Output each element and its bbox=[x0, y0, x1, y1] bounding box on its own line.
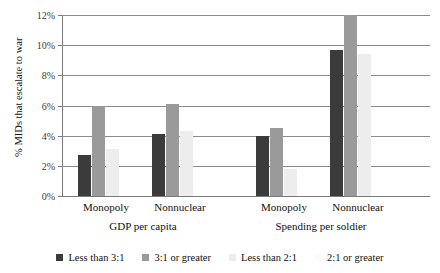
bar bbox=[166, 104, 179, 196]
x-axis-category-label: Nonnuclear bbox=[308, 201, 408, 213]
x-axis-panel-label: Spending per soldier bbox=[241, 220, 401, 232]
bar-group bbox=[152, 15, 208, 196]
gridline bbox=[62, 196, 430, 197]
legend-swatch-icon bbox=[229, 254, 236, 261]
y-tick-label: 8% bbox=[42, 70, 55, 81]
bar-group bbox=[256, 15, 312, 196]
y-tick-label: 10% bbox=[37, 40, 55, 51]
y-tick-label: 6% bbox=[42, 100, 55, 111]
legend-swatch-icon bbox=[56, 254, 63, 261]
bar bbox=[284, 169, 297, 196]
y-tick-mark bbox=[58, 136, 62, 137]
legend-swatch-icon bbox=[142, 254, 149, 261]
legend-label: Less than 3:1 bbox=[68, 252, 124, 263]
y-tick-mark bbox=[58, 75, 62, 76]
bar bbox=[270, 128, 283, 196]
bar bbox=[152, 134, 165, 196]
legend-item[interactable]: 3:1 or greater bbox=[142, 252, 211, 263]
legend-swatch-icon bbox=[315, 254, 322, 261]
y-tick-label: 12% bbox=[37, 10, 55, 21]
bar-chart-figure: % MIDs that escalate to war 0%2%4%6%8%10… bbox=[0, 0, 440, 273]
bar-group bbox=[78, 15, 134, 196]
y-tick-mark bbox=[58, 106, 62, 107]
x-axis-panel-label: GDP per capita bbox=[63, 220, 223, 232]
y-tick-mark bbox=[58, 166, 62, 167]
legend-label: 3:1 or greater bbox=[154, 252, 211, 263]
y-tick-label: 4% bbox=[42, 130, 55, 141]
chart-legend: Less than 3:13:1 or greaterLess than 2:1… bbox=[0, 252, 440, 263]
y-tick-mark bbox=[58, 15, 62, 16]
y-axis-title: % MIDs that escalate to war bbox=[14, 2, 25, 192]
legend-label: 2:1 or greater bbox=[327, 252, 384, 263]
bar-group bbox=[330, 15, 386, 196]
legend-item[interactable]: Less than 3:1 bbox=[56, 252, 124, 263]
legend-label: Less than 2:1 bbox=[241, 252, 297, 263]
bar bbox=[92, 106, 105, 197]
bar bbox=[180, 131, 193, 196]
bar bbox=[330, 50, 343, 196]
x-axis-category-label: Nonnuclear bbox=[130, 201, 230, 213]
bar bbox=[256, 136, 269, 196]
bar bbox=[78, 155, 91, 196]
y-tick-label: 2% bbox=[42, 160, 55, 171]
plot-area: 0%2%4%6%8%10%12% bbox=[62, 15, 430, 196]
bar bbox=[106, 149, 119, 196]
y-tick-mark bbox=[58, 196, 62, 197]
legend-item[interactable]: Less than 2:1 bbox=[229, 252, 297, 263]
legend-item[interactable]: 2:1 or greater bbox=[315, 252, 384, 263]
y-tick-label: 0% bbox=[42, 191, 55, 202]
bar bbox=[344, 15, 357, 196]
y-tick-mark bbox=[58, 45, 62, 46]
bar bbox=[358, 54, 371, 196]
